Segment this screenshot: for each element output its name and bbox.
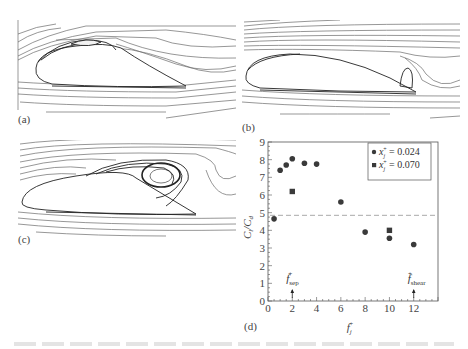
data-point-square [290, 189, 295, 194]
y-tick-label: 8 [260, 154, 266, 166]
annotation-label: fsep+ [286, 270, 299, 287]
data-point-circle [277, 167, 283, 173]
y-tick-label: 4 [260, 224, 266, 236]
chart-annotations: fsep+fshear+ [286, 270, 426, 298]
legend-square-icon [372, 163, 376, 167]
x-axis-label: fj+ [347, 320, 354, 336]
x-tick-label: 12 [408, 302, 419, 314]
x-tick-label: 0 [265, 302, 271, 314]
data-point-circle [314, 161, 320, 167]
annotation-label: fshear+ [408, 270, 427, 287]
legend-circle-icon [372, 150, 376, 154]
y-tick-label: 0 [260, 295, 266, 307]
y-tick-label: 3 [260, 242, 266, 254]
panel-label-d: (d) [244, 320, 257, 332]
data-point-circle [387, 235, 393, 241]
data-point-circle [411, 242, 417, 248]
y-tick-label: 2 [260, 260, 266, 272]
data-point-circle [271, 216, 277, 222]
data-point-circle [362, 229, 368, 235]
y-tick-label: 5 [260, 207, 266, 219]
y-tick-label: 1 [260, 277, 266, 289]
y-tick-label: 9 [260, 136, 266, 148]
y-tick-label: 6 [260, 189, 266, 201]
y-axis-label: Cl/Cd [241, 215, 255, 239]
data-point-circle [302, 160, 308, 166]
x-tick-label: 8 [362, 302, 368, 314]
x-tick-label: 4 [314, 302, 320, 314]
data-point-circle [289, 156, 295, 162]
y-tick-label: 7 [260, 171, 266, 183]
chart-lift-drag-ratio: 0246810120123456789fj+Cl/Cd xj+ = 0.024x… [0, 0, 468, 349]
arrow-up-icon [290, 289, 294, 293]
x-tick-label: 6 [338, 302, 344, 314]
x-tick-label: 2 [290, 302, 296, 314]
data-point-circle [283, 162, 289, 168]
caption-fragment [14, 342, 454, 346]
chart-legend: xj+ = 0.024xj+ = 0.070 [368, 143, 431, 180]
data-point-circle [338, 199, 344, 205]
arrow-up-icon [412, 289, 416, 293]
data-point-square [387, 228, 392, 233]
x-tick-label: 10 [384, 302, 396, 314]
